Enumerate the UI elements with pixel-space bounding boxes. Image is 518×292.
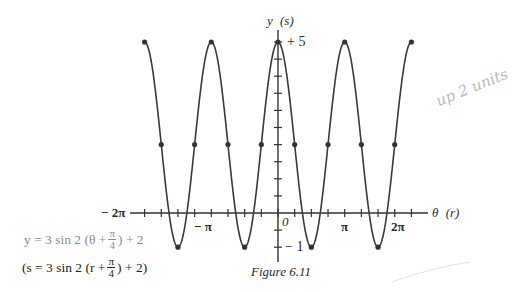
pi-over-4-fraction: π 4 (108, 228, 116, 251)
pencil-mark (392, 262, 470, 282)
x-neg-2pi-label: − 2π (101, 205, 125, 221)
equation-y-prefix: y = 3 sin 2 (θ + (24, 232, 106, 248)
x-axis-variable: θ (432, 205, 438, 220)
pi-over-4-fraction: π 4 (107, 256, 115, 279)
origin-label: 0 (282, 214, 289, 230)
y-axis-alt-variable: (s) (280, 13, 294, 28)
x-pi-label: π (341, 219, 348, 235)
equation-y: y = 3 sin 2 (θ + π 4 ) + 2 (24, 228, 144, 251)
curve-point (409, 39, 414, 44)
x-neg-pi-label: − π (194, 219, 212, 235)
curve-point (142, 39, 147, 44)
equation-y-suffix: ) + 2 (118, 232, 144, 248)
fraction-denominator: 4 (109, 268, 115, 279)
curve-point (325, 142, 330, 147)
x-axis-alt-variable: (r) (446, 205, 460, 220)
curve-point (225, 142, 230, 147)
curve-point (192, 142, 197, 147)
curve-point (259, 142, 264, 147)
curve-point (175, 245, 180, 250)
curve-point (242, 245, 247, 250)
y-axis-label: y (s) (267, 13, 294, 29)
curve-point (375, 245, 380, 250)
curve-point (159, 142, 164, 147)
curve-point (309, 245, 314, 250)
curve-point (342, 39, 347, 44)
curve-point (275, 39, 280, 44)
curve-point (392, 142, 397, 147)
curve-point (359, 142, 364, 147)
figure-caption: Figure 6.11 (251, 264, 311, 280)
curve-point (292, 142, 297, 147)
curve-point (209, 39, 214, 44)
y-min-label: − 1 (285, 239, 303, 255)
y-axis-variable: y (267, 13, 273, 28)
equation-s-suffix: ) + 2) (117, 260, 147, 276)
x-axis-label: θ (r) (432, 205, 459, 221)
fraction-denominator: 4 (109, 240, 115, 251)
equation-s: (s = 3 sin 2 (r + π 4 ) + 2) (22, 256, 147, 279)
y-max-label: + 5 (287, 34, 305, 50)
x-2pi-label: 2π (391, 219, 405, 235)
equation-s-prefix: (s = 3 sin 2 (r + (22, 260, 105, 276)
